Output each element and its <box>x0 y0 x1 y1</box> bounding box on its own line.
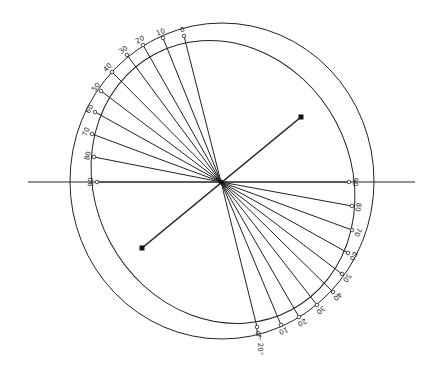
angle-annotation: ← 20° <box>256 335 264 356</box>
lower-tick-label: 90 <box>351 178 359 187</box>
lower-tick-marker <box>346 251 350 255</box>
lower-tick-marker <box>350 204 354 208</box>
lower-tick-marker <box>297 315 301 319</box>
center-point <box>219 180 224 185</box>
upper-ray <box>127 55 221 182</box>
lower-tick-marker <box>350 228 354 232</box>
upper-tick-marker <box>90 132 94 136</box>
lower-tick-marker <box>255 325 259 329</box>
upper-tick-label: 70 <box>81 126 92 137</box>
lower-tick-marker <box>347 180 351 184</box>
lower-ray <box>221 182 348 253</box>
lower-ray <box>221 182 352 230</box>
lower-tick-marker <box>331 290 335 294</box>
upper-tick-marker <box>141 43 145 47</box>
upper-ray <box>112 72 221 182</box>
pole-marker-icon <box>299 115 304 120</box>
lower-ray <box>221 182 352 206</box>
upper-tick-marker <box>99 89 103 93</box>
stereographic-diagram: 01020304050607080909080706050403020100 ←… <box>0 0 446 386</box>
lower-tick-label: 70 <box>352 227 363 238</box>
lower-tick-label: 80 <box>353 202 362 212</box>
upper-tick-marker <box>93 110 97 114</box>
upper-tick-label: 0 <box>179 26 185 35</box>
upper-tick-marker <box>110 70 114 74</box>
upper-tick-marker <box>125 53 129 57</box>
upper-tick-marker <box>92 155 96 159</box>
pole-marker-icon <box>140 246 145 251</box>
lower-tick-marker <box>315 303 319 307</box>
upper-tick-label: 90 <box>87 178 95 187</box>
upper-ray <box>92 134 221 182</box>
diagram-canvas: 01020304050607080909080706050403020100 ←… <box>0 0 446 386</box>
upper-tick-label: 80 <box>83 151 93 161</box>
upper-ray <box>95 112 221 182</box>
upper-tick-marker <box>95 180 99 184</box>
upper-ray <box>184 36 221 182</box>
upper-tick-marker <box>161 36 165 40</box>
upper-ray <box>143 45 221 182</box>
upper-tick-label: 10 <box>155 27 166 38</box>
lower-ray <box>221 182 299 317</box>
upper-ray <box>94 157 221 182</box>
lower-tick-marker <box>340 272 344 276</box>
upper-tick-marker <box>182 34 186 38</box>
lower-ray <box>221 182 333 292</box>
lower-tick-marker <box>279 323 283 327</box>
